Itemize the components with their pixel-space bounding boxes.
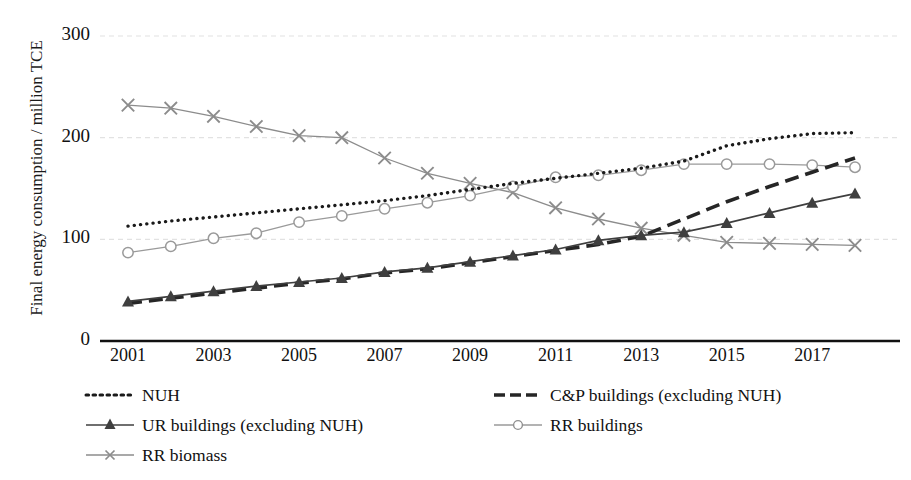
data-point-marker	[250, 120, 262, 132]
data-point-marker	[465, 190, 475, 200]
data-point-marker	[294, 217, 304, 227]
data-point-marker	[251, 228, 261, 238]
series-ur-buildings-excluding-nuh	[122, 188, 861, 307]
x-tick-label-2009: 2009	[440, 345, 500, 366]
y-axis-title: Final energy consumption / million TCE	[27, 13, 47, 343]
legend-label-cp-buildings: C&P buildings (excluding NUH)	[550, 385, 781, 406]
data-point-marker	[208, 233, 218, 243]
data-point-marker	[722, 159, 732, 169]
x-tick-label-2011: 2011	[526, 345, 586, 366]
data-point-marker	[123, 247, 133, 257]
data-point-marker	[850, 162, 860, 172]
legend-label-rr-biomass: RR biomass	[142, 445, 227, 466]
data-point-marker	[337, 211, 347, 221]
dotted-line-key-icon	[84, 385, 136, 405]
x-tick-label-2007: 2007	[355, 345, 415, 366]
y-tick-label-0: 0	[34, 328, 90, 350]
data-point-marker	[421, 167, 433, 179]
data-point-marker	[592, 213, 604, 225]
legend-item-cp-buildings: C&P buildings (excluding NUH)	[492, 384, 781, 406]
series-group	[122, 99, 861, 307]
data-point-marker	[549, 202, 561, 214]
data-point-marker	[464, 177, 476, 189]
data-point-marker	[593, 170, 603, 180]
legend-label-rr-buildings: RR buildings	[550, 415, 643, 436]
x-tick-label-2015: 2015	[697, 345, 757, 366]
series-line	[128, 194, 855, 302]
x-tick-label-2003: 2003	[184, 345, 244, 366]
series-nuh	[128, 133, 855, 227]
x-marker-line-key-icon	[84, 445, 136, 465]
triangle-marker-line-key-icon	[84, 415, 136, 435]
series-rr-biomass	[122, 99, 861, 252]
y-tick-label-100: 100	[34, 226, 90, 248]
y-tick-label-300: 300	[34, 23, 90, 45]
series-line	[128, 133, 855, 227]
legend-item-rr-buildings: RR buildings	[492, 414, 643, 436]
series-line	[128, 158, 855, 303]
data-point-marker	[378, 152, 390, 164]
data-point-marker	[379, 204, 389, 214]
data-point-marker	[849, 188, 861, 199]
x-tick-label-2001: 2001	[98, 345, 158, 366]
circle-marker-line-key-icon	[492, 415, 544, 435]
data-point-marker	[807, 160, 817, 170]
x-tick-label-2005: 2005	[269, 345, 329, 366]
data-point-marker	[207, 110, 219, 122]
data-point-marker	[764, 159, 774, 169]
series-c-p-buildings-excluding-nuh	[128, 158, 855, 303]
legend-label-ur-buildings: UR buildings (excluding NUH)	[142, 415, 363, 436]
data-point-marker	[166, 241, 176, 251]
gridlines-group	[100, 36, 900, 239]
legend-item-ur-buildings: UR buildings (excluding NUH)	[84, 414, 363, 436]
legend-item-nuh: NUH	[84, 384, 180, 406]
chart-figure: Final energy consumption / million TCE 3…	[0, 0, 911, 480]
x-tick-label-2017: 2017	[782, 345, 842, 366]
legend-item-rr-biomass: RR biomass	[84, 444, 227, 466]
legend-label-nuh: NUH	[142, 385, 180, 406]
data-point-marker	[422, 198, 432, 208]
series-line	[128, 105, 855, 245]
dashed-line-key-icon	[492, 385, 544, 405]
y-tick-label-200: 200	[34, 125, 90, 147]
chart-legend: NUH C&P buildings (excluding NUH) UR bui…	[84, 382, 884, 474]
x-tick-label-2013: 2013	[611, 345, 671, 366]
